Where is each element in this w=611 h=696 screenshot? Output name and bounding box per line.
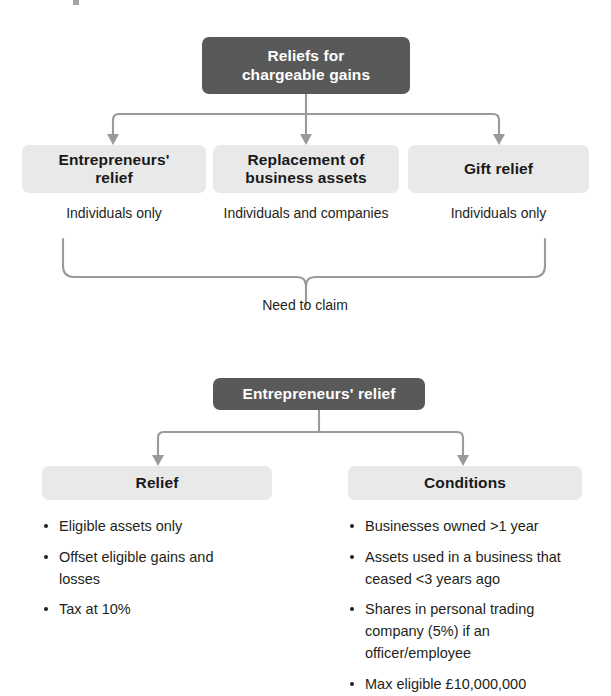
root-label-line-2: chargeable gains [242, 66, 370, 83]
arrowhead-group-bottom [152, 455, 469, 466]
node-gift-relief[interactable]: Gift relief [408, 145, 589, 193]
relief-heading-label: Relief [136, 474, 179, 491]
list-item: Offset eligible gains and losses [42, 547, 254, 591]
relief-item-text: Eligible assets only [59, 518, 182, 534]
list-item: Max eligible £10,000,000 [348, 674, 576, 696]
conditions-item-text: Max eligible £10,000,000 [365, 676, 526, 692]
branch-2-label-line-2: business assets [245, 169, 366, 186]
list-item: Businesses owned >1 year [348, 516, 576, 538]
caption-need-to-claim: Need to claim [205, 295, 405, 315]
list-item: Eligible assets only [42, 516, 254, 538]
relief-item-text: Offset eligible gains and losses [59, 549, 214, 587]
branch-1-label-line-2: relief [95, 169, 133, 186]
node-entrepreneurs-relief-detail[interactable]: Entrepreneurs' relief [213, 378, 425, 410]
list-item: Assets used in a business that ceased <3… [348, 547, 576, 591]
caption-gift-relief: Individuals only [408, 203, 589, 223]
list-item: Tax at 10% [42, 599, 254, 621]
branch-2-label-line-1: Replacement of [248, 151, 365, 168]
branch-1-label-line-1: Entrepreneurs' [58, 151, 169, 168]
node-entrepreneurs-relief[interactable]: Entrepreneurs' relief [22, 145, 206, 193]
section-two-root-label: Entrepreneurs' relief [242, 385, 395, 402]
page-artifact-speck [73, 0, 79, 5]
conditions-item-text: Assets used in a business that ceased <3… [365, 549, 561, 587]
branch-3-label-line-1: Gift relief [464, 160, 533, 177]
node-conditions-heading[interactable]: Conditions [348, 466, 582, 500]
node-replacement-of-business-assets[interactable]: Replacement of business assets [213, 145, 399, 193]
conditions-item-text: Businesses owned >1 year [365, 518, 539, 534]
root-label-line-1: Reliefs for [268, 47, 345, 64]
conditions-heading-label: Conditions [424, 474, 506, 491]
diagram-canvas: Reliefs for chargeable gains Entrepreneu… [0, 0, 611, 696]
list-item: Shares in personal trading company (5%) … [348, 599, 576, 664]
conditions-item-text: Shares in personal trading company (5%) … [365, 601, 534, 661]
arrowhead-group-top [107, 134, 505, 145]
node-relief-heading[interactable]: Relief [42, 466, 272, 500]
node-reliefs-for-chargeable-gains[interactable]: Reliefs for chargeable gains [202, 37, 410, 94]
relief-item-text: Tax at 10% [59, 601, 131, 617]
relief-bullet-list: Eligible assets only Offset eligible gai… [42, 516, 254, 630]
conditions-bullet-list: Businesses owned >1 year Assets used in … [348, 516, 576, 696]
caption-replacement-of-business-assets: Individuals and companies [213, 203, 399, 223]
caption-entrepreneurs-relief: Individuals only [22, 203, 206, 223]
